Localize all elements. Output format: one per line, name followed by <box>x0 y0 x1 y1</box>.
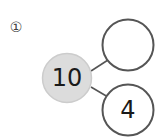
top-part-value[interactable] <box>102 19 154 71</box>
bottom-part-value: 4 <box>102 84 154 136</box>
whole-value: 10 <box>42 53 92 103</box>
